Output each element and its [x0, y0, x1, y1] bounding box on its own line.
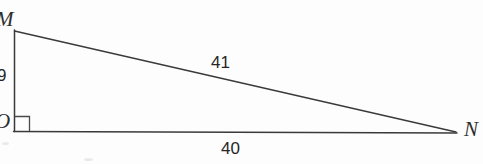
vertex-label-o: O	[0, 111, 10, 132]
vertex-label-m: M	[0, 9, 14, 30]
base-length-label: 40	[221, 140, 240, 157]
hypotenuse-line	[15, 31, 457, 132]
right-angle-marker	[15, 117, 30, 132]
scan-artifact-speck	[84, 158, 93, 161]
base-line	[14, 132, 458, 134]
vertex-label-n: N	[464, 119, 478, 140]
scan-artifact-speck	[2, 142, 9, 145]
vertical-leg-length-label: 9	[0, 67, 6, 84]
triangle-figure	[0, 0, 483, 164]
hypotenuse-length-label: 41	[211, 54, 230, 71]
